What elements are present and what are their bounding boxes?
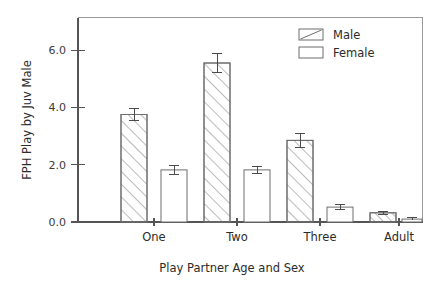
bar-female-one bbox=[161, 170, 187, 222]
x-tick-label-one: One bbox=[142, 230, 165, 244]
x-tick-label-two: Two bbox=[225, 230, 248, 244]
legend-label-female: Female bbox=[333, 46, 375, 60]
x-axis-title: Play Partner Age and Sex bbox=[159, 261, 304, 275]
bar-male-two bbox=[204, 63, 230, 222]
y-tick-label-1: 2.0 bbox=[49, 159, 67, 172]
y-tick-label-3: 6.0 bbox=[49, 44, 67, 57]
bar-group-three bbox=[287, 133, 353, 226]
bar-group-adult bbox=[370, 211, 422, 226]
bar-male-one bbox=[121, 115, 147, 223]
legend-label-male: Male bbox=[333, 28, 360, 42]
chart-figure: 0.0 2.0 4.0 6.0 FPH Play by Juv Male bbox=[0, 0, 443, 283]
bar-group-two bbox=[204, 54, 270, 226]
bar-group-one bbox=[121, 108, 187, 226]
legend-entry-female: Female bbox=[299, 46, 375, 60]
chart-legend: Male Female bbox=[299, 28, 375, 60]
y-tick-label-2: 4.0 bbox=[49, 101, 67, 114]
bar-female-two bbox=[244, 170, 270, 222]
y-axis-title: FPH Play by Juv Male bbox=[20, 60, 34, 180]
legend-entry-male: Male bbox=[299, 28, 360, 42]
x-tick-label-adult: Adult bbox=[384, 230, 414, 244]
bar-chart-canvas: 0.0 2.0 4.0 6.0 FPH Play by Juv Male bbox=[0, 0, 443, 283]
y-tick-label-0: 0.0 bbox=[49, 216, 67, 229]
empty-swatch-icon bbox=[299, 47, 323, 58]
bar-male-three bbox=[287, 140, 313, 222]
x-tick-label-three: Three bbox=[303, 230, 337, 244]
